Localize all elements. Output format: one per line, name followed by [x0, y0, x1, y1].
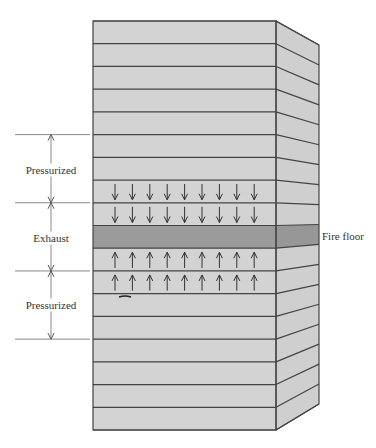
- fire-floor-label: Fire floor: [322, 230, 364, 243]
- fire-floor: [93, 226, 276, 249]
- zone-label-pressurized-upper: Pressurized: [25, 164, 78, 177]
- building: [93, 21, 319, 430]
- zone-label-exhaust: Exhaust: [32, 232, 69, 245]
- building-diagram: [0, 0, 376, 448]
- zone-label-pressurized-lower: Pressurized: [25, 299, 78, 312]
